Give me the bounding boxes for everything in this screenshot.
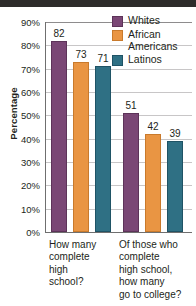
y-axis-tick-50pct: 50% xyxy=(0,110,43,121)
y-axis-tick-90pct: 90% xyxy=(0,17,43,28)
gridline-60pct xyxy=(46,92,192,93)
x-axis-category-label-1: Of those who complete high school, how m… xyxy=(119,239,196,301)
legend-item-whites[interactable]: Whites xyxy=(112,14,194,27)
bar-value-whites-group-0: 82 xyxy=(46,28,72,39)
gridline-50pct xyxy=(46,115,192,116)
bar-value-latinos-group-1: 39 xyxy=(162,128,188,139)
y-axis-tick-20pct: 20% xyxy=(0,180,43,191)
bar-value-whites-group-1: 51 xyxy=(118,100,144,111)
grouped-bar-chart: Percentage 90%80%70%60%50%40%30%20%10%0%… xyxy=(0,0,196,306)
bar-whites-group-0 xyxy=(51,41,67,232)
y-axis-tick-80pct: 80% xyxy=(0,40,43,51)
legend-swatch-latinos-icon xyxy=(112,55,123,66)
bar-whites-group-1 xyxy=(123,113,139,232)
bar-african-group-0 xyxy=(73,62,89,232)
bar-african-group-1 xyxy=(145,134,161,232)
y-axis-tick-70pct: 70% xyxy=(0,63,43,74)
legend-label-whites: Whites xyxy=(128,14,160,26)
bar-latinos-group-1 xyxy=(167,141,183,232)
legend-label-latinos: Latinos xyxy=(128,53,162,65)
chart-legend: WhitesAfrican AmericansLatinos xyxy=(112,14,194,67)
legend-swatch-african-icon xyxy=(112,30,123,41)
y-axis-tick-40pct: 40% xyxy=(0,133,43,144)
y-axis-tick-30pct: 30% xyxy=(0,157,43,168)
legend-item-latinos[interactable]: Latinos xyxy=(112,53,194,66)
y-axis-tick-60pct: 60% xyxy=(0,87,43,98)
bar-latinos-group-0 xyxy=(95,66,111,232)
x-axis-category-label-0: How many complete high school? xyxy=(49,239,115,289)
y-axis-tick-0pct: 0% xyxy=(0,227,43,238)
legend-label-african: African Americans xyxy=(128,28,178,52)
legend-item-african[interactable]: African Americans xyxy=(112,28,194,52)
y-axis-tick-10pct: 10% xyxy=(0,203,43,214)
legend-swatch-whites-icon xyxy=(112,16,123,27)
y-axis-tick-labels: 90%80%70%60%50%40%30%20%10%0% xyxy=(0,0,43,306)
gridline-70pct xyxy=(46,69,192,70)
